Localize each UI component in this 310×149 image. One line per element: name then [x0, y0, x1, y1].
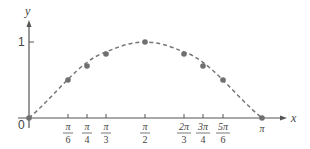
y-axis-label: y — [24, 4, 31, 18]
point-pi-3 — [103, 51, 109, 57]
svg-text:2: 2 — [143, 134, 148, 145]
svg-text:2π: 2π — [179, 121, 190, 132]
tick-label-2pi-3: 2π 3 — [177, 121, 191, 145]
svg-text:π: π — [84, 121, 90, 132]
point-pi-4 — [84, 63, 90, 69]
tick-label-3pi-4: 3π 4 — [196, 121, 210, 145]
tick-label-5pi-6: 5π 6 — [216, 121, 230, 145]
x-axis-arrow-icon — [280, 116, 287, 121]
point-pi-6 — [65, 77, 71, 83]
point-0 — [26, 115, 32, 121]
svg-text:6: 6 — [221, 134, 226, 145]
data-points — [26, 39, 265, 121]
x-tick-labels: π 6 π 4 π 3 π 2 2π 3 3π 4 — [63, 121, 265, 145]
point-pi — [259, 115, 265, 121]
tick-label-pi-6: π 6 — [63, 121, 73, 145]
origin-label: 0 — [18, 118, 25, 132]
y-axis-arrow-icon — [27, 20, 32, 27]
sine-curve — [29, 42, 262, 118]
svg-text:π: π — [103, 121, 109, 132]
svg-text:3π: 3π — [197, 121, 209, 132]
point-5pi-6 — [220, 77, 226, 83]
point-3pi-4 — [200, 63, 206, 69]
svg-text:4: 4 — [85, 134, 90, 145]
x-axis-label: x — [290, 111, 297, 125]
svg-text:π: π — [65, 121, 71, 132]
svg-text:π: π — [142, 121, 148, 132]
tick-label-pi-4: π 4 — [82, 121, 92, 145]
sine-chart: y x 1 0 π 6 π 4 π 3 π — [0, 0, 310, 149]
point-pi-2 — [142, 39, 148, 45]
tick-label-pi: π — [259, 123, 265, 134]
svg-text:6: 6 — [66, 134, 71, 145]
y-tick-label-1: 1 — [18, 35, 25, 49]
svg-text:5π: 5π — [218, 121, 229, 132]
svg-text:3: 3 — [182, 134, 187, 145]
svg-text:4: 4 — [201, 134, 206, 145]
tick-label-pi-3: π 3 — [101, 121, 111, 145]
point-2pi-3 — [181, 51, 187, 57]
svg-text:3: 3 — [104, 134, 109, 145]
tick-label-pi-2: π 2 — [140, 121, 150, 145]
